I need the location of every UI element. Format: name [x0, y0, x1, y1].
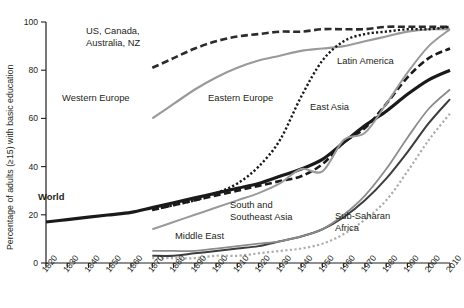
series-annotation-label: East Asia: [310, 101, 350, 112]
series-line-eastern-europe: [152, 27, 450, 210]
y-tick-label: 20: [28, 210, 38, 220]
y-tick-label: 100: [24, 17, 39, 27]
y-tick-label: 80: [28, 65, 38, 75]
series-line-western-europe: [152, 29, 450, 118]
x-tick-label: 2010: [444, 253, 464, 274]
chart-canvas: 0204060801001820183018401850186018701880…: [0, 0, 464, 308]
y-tick-label: 0: [33, 258, 38, 268]
series-annotation-label: Africa: [335, 222, 360, 233]
series-annotation-label: Middle East: [175, 230, 224, 241]
education-line-chart: 0204060801001820183018401850186018701880…: [0, 0, 464, 308]
annotations-group: US, Canada,Australia, NZWestern EuropeEa…: [38, 25, 395, 241]
series-annotation-label: Sub-Saharan: [335, 210, 390, 221]
series-annotation-label: Latin America: [337, 55, 395, 66]
series-annotation-label: Southeast Asia: [230, 211, 293, 222]
tick-labels-group: 0204060801001820183018401850186018701880…: [24, 17, 464, 274]
series-annotation-label: US, Canada,: [86, 25, 140, 36]
series-annotation-label: Eastern Europe: [208, 92, 273, 103]
y-tick-label: 60: [28, 113, 38, 123]
series-line-latin-america: [152, 49, 450, 210]
y-tick-label: 40: [28, 162, 38, 172]
series-annotation-label: South and: [230, 199, 273, 210]
series-annotation-label: World: [38, 191, 65, 202]
y-axis-title: Percentage of adults (≥15) with basic ed…: [5, 65, 15, 250]
series-annotation-label: Australia, NZ: [86, 37, 140, 48]
series-annotation-label: Western Europe: [62, 92, 130, 103]
